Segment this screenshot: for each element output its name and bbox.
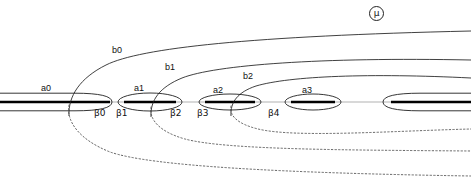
label-beta0: β0	[94, 109, 105, 118]
label-beta4: β4	[268, 109, 279, 118]
b-cycle-b2	[231, 76, 471, 116]
label-beta2: β2	[170, 109, 181, 118]
figure-canvas: a0 a1 a2 a3 b0 b1 b2 β0 β1 β2 β3 β4 μ	[0, 0, 471, 179]
label-b2: b2	[243, 72, 253, 81]
label-a2: a2	[213, 86, 223, 95]
label-b0: b0	[112, 46, 122, 55]
mu-badge: μ	[369, 6, 384, 21]
label-a0: a0	[41, 84, 51, 93]
label-a1: a1	[134, 84, 144, 93]
label-beta3: β3	[197, 109, 208, 118]
a-cycle-a2	[199, 94, 261, 110]
b-cycle-b2-hidden	[231, 106, 471, 133]
a-cycle-a4	[383, 93, 471, 111]
a-cycle-a3	[285, 94, 341, 110]
branch-cut-diagram	[0, 0, 471, 179]
label-b1: b1	[165, 63, 175, 72]
label-beta1: β1	[116, 109, 127, 118]
label-a3: a3	[302, 86, 312, 95]
